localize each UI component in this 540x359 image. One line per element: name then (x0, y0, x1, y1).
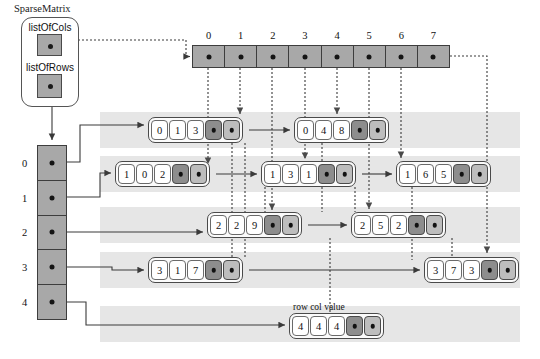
matrix-node: 3 1 7 (148, 257, 243, 283)
node-value-field: 5 (435, 164, 452, 184)
node-col-field: 6 (417, 164, 434, 184)
node-col-field: 4 (315, 120, 332, 140)
node-row-field: 1 (264, 164, 281, 184)
matrix-node: 1 0 2 (115, 161, 210, 187)
col-array-cell: 7 (418, 46, 449, 67)
node-col-field: 1 (169, 120, 186, 140)
node-col-field: 4 (310, 316, 327, 336)
node-down-pointer (264, 215, 281, 235)
node-down-pointer (172, 164, 189, 184)
node-down-pointer (481, 260, 498, 280)
node-value-field: 8 (333, 120, 350, 140)
node-down-pointer (318, 164, 335, 184)
matrix-node: 2 5 2 (351, 212, 446, 238)
matrix-node: 3 7 3 (424, 257, 519, 283)
row-array-cell: 0 (38, 146, 66, 181)
matrix-node: 0 1 3 (148, 117, 243, 143)
node-col-field: 7 (445, 260, 462, 280)
node-next-pointer (369, 120, 386, 140)
col-array-cell: 6 (386, 46, 418, 67)
node-next-pointer (364, 316, 381, 336)
col-array-cell: 3 (289, 46, 321, 67)
node-down-pointer (205, 260, 222, 280)
row-array-cell: 4 (38, 285, 66, 319)
node-down-pointer (351, 120, 368, 140)
row-array-cell: 1 (38, 181, 66, 216)
node-value-field: 2 (154, 164, 171, 184)
listofrows-array: 0 1 2 3 4 (37, 145, 67, 320)
matrix-node: 2 2 9 (207, 212, 302, 238)
row-array-cell: 2 (38, 216, 66, 251)
node-value-field: 4 (328, 316, 345, 336)
node-row-field: 1 (118, 164, 135, 184)
node-value-field: 3 (187, 120, 204, 140)
listofcols-label: listOfCols (21, 22, 79, 33)
node-row-field: 2 (354, 215, 371, 235)
node-down-pointer (453, 164, 470, 184)
listofrows-label: listOfRows (21, 62, 79, 73)
node-next-pointer (223, 120, 240, 140)
node-value-field: 7 (187, 260, 204, 280)
node-col-field: 3 (282, 164, 299, 184)
node-row-field: 0 (297, 120, 314, 140)
node-down-pointer (408, 215, 425, 235)
node-next-pointer (471, 164, 488, 184)
matrix-node: 0 4 8 (294, 117, 389, 143)
col-array-cell: 4 (322, 46, 354, 67)
node-value-field: 2 (390, 215, 407, 235)
listofrows-pointer (37, 74, 62, 98)
col-array-cell: 1 (225, 46, 257, 67)
node-next-pointer (499, 260, 516, 280)
node-next-pointer (426, 215, 443, 235)
row-band-2 (100, 207, 520, 243)
node-row-field: 4 (292, 316, 309, 336)
node-col-field: 5 (372, 215, 389, 235)
node-next-pointer (336, 164, 353, 184)
node-col-field: 2 (228, 215, 245, 235)
node-next-pointer (190, 164, 207, 184)
node-field-legend: row col value (293, 302, 345, 312)
row-array-cell: 3 (38, 250, 66, 285)
node-down-pointer (346, 316, 363, 336)
node-down-pointer (205, 120, 222, 140)
listofcols-pointer (37, 34, 62, 56)
matrix-node: 1 3 1 (261, 161, 356, 187)
node-next-pointer (223, 260, 240, 280)
listofcols-array: 0 1 2 3 4 5 6 7 (192, 45, 450, 68)
node-col-field: 1 (169, 260, 186, 280)
node-value-field: 3 (463, 260, 480, 280)
node-row-field: 3 (151, 260, 168, 280)
matrix-node: 1 6 5 (396, 161, 491, 187)
sparse-matrix-diagram: SparseMatrix listOfCols listOfRows 0 1 2… (0, 0, 540, 359)
col-array-cell: 0 (193, 46, 225, 67)
node-value-field: 1 (300, 164, 317, 184)
matrix-node: 4 4 4 (289, 313, 384, 339)
col-array-cell: 2 (257, 46, 289, 67)
sparse-matrix-title: SparseMatrix (14, 3, 71, 14)
node-row-field: 3 (427, 260, 444, 280)
node-next-pointer (282, 215, 299, 235)
node-row-field: 1 (399, 164, 416, 184)
node-col-field: 0 (136, 164, 153, 184)
node-row-field: 2 (210, 215, 227, 235)
col-array-cell: 5 (354, 46, 386, 67)
node-row-field: 0 (151, 120, 168, 140)
node-value-field: 9 (246, 215, 263, 235)
